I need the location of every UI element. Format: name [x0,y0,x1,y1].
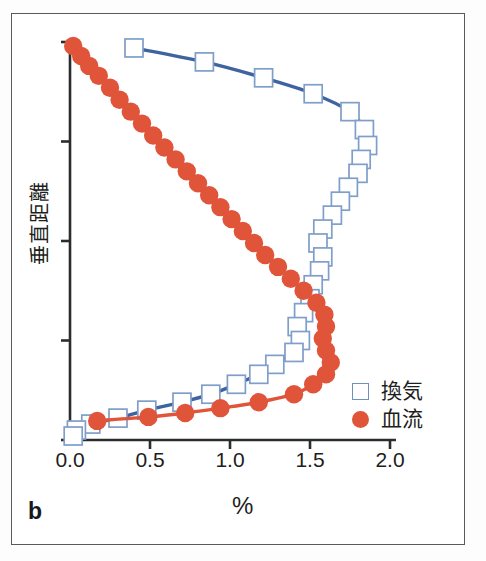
panel-label: b [28,498,42,525]
x-axis-ticks [150,440,390,449]
legend-label: 換気 [381,381,423,402]
series-perfusion [64,37,340,430]
x-tick-label: 1.0 [195,448,265,472]
y-axis-ticks [61,42,70,440]
x-tick-label: 2.0 [355,448,425,472]
chart-legend: 換気血流 [352,381,423,430]
x-tick-label: 1.5 [275,448,345,472]
legend-item: 血流 [352,409,423,430]
x-axis-title: % [0,492,486,520]
open-square-icon [352,383,369,400]
x-tick-label: 0.0 [35,448,105,472]
legend-item: 換気 [352,381,423,402]
filled-circle-icon [352,411,369,428]
y-axis-title: 垂直距離 [24,143,53,303]
chart-plot-area [0,0,486,561]
legend-label: 血流 [381,409,423,430]
x-tick-label: 0.5 [115,448,185,472]
